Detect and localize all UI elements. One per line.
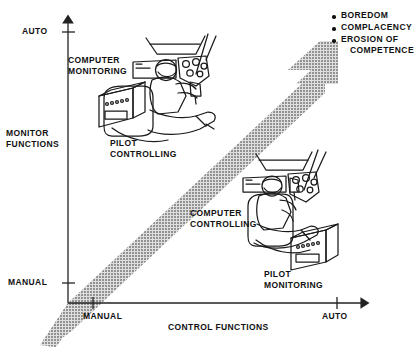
caption-computer-monitoring-line2: MONITORING [68,66,127,77]
caption-computer-controlling-line1: COMPUTER [190,208,242,219]
caption-computer-monitoring-line1: COMPUTER [68,55,120,66]
legend-bullet-icon [332,15,336,19]
y-tick-auto: AUTO [22,26,48,37]
cockpit-illustration-pilot-monitoring [243,150,326,253]
caption-pilot-controlling-line2: CONTROLLING [110,149,177,160]
caption-computer-controlling-line2: CONTROLLING [190,219,257,230]
automation-band [40,41,338,347]
computer-box-upper [99,82,145,127]
legend-item-boredom: BOREDOM [341,10,388,22]
caption-pilot-controlling-line1: PILOT [110,138,137,149]
x-tick-auto: AUTO [322,311,348,322]
legend-bullet-icon [332,27,336,31]
legend-item-erosion-line2: COMPETENCE [350,45,414,57]
caption-pilot-monitoring-line2: MONITORING [264,280,323,291]
legend-item-complacency: COMPLACENCY [341,22,412,34]
legend-bullet-icon [332,39,336,43]
legend-item-erosion-line1: EROSION OF [341,34,398,46]
y-axis-title-line1: MONITOR [6,128,49,139]
figure-canvas: AUTO MANUAL MONITOR FUNCTIONS MANUAL AUT… [0,0,415,348]
x-axis-title: CONTROL FUNCTIONS [168,322,269,333]
caption-pilot-monitoring-line1: PILOT [264,269,291,280]
x-tick-manual: MANUAL [83,311,122,322]
y-axis-title-line2: FUNCTIONS [6,139,59,150]
y-tick-manual: MANUAL [8,277,47,288]
